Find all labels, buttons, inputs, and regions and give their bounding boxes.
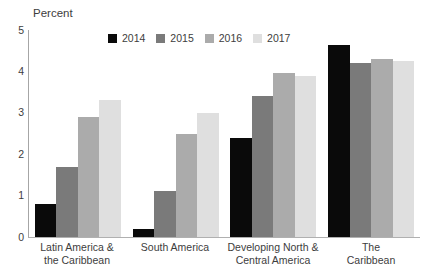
bar-2016 (273, 73, 295, 237)
y-tick-label: 3 (18, 106, 24, 119)
y-axis-tick-labels: 012345 (0, 30, 24, 237)
bar-2016 (78, 117, 100, 237)
category-label-line: Developing North & (224, 241, 322, 254)
bar-2017 (295, 76, 317, 237)
bar-2015 (350, 63, 372, 237)
bar-group (29, 30, 127, 237)
x-axis-category-labels: Latin America &the CaribbeanSouth Americ… (28, 241, 420, 267)
bar-2015 (252, 96, 274, 237)
category-label-line: Caribbean (322, 254, 420, 267)
bar-chart: Percent 2014201520162017 012345 Latin Am… (0, 0, 433, 280)
y-tick-label: 5 (18, 24, 24, 37)
bar-2014 (35, 204, 57, 237)
category-label-line: South America (126, 241, 224, 254)
y-tick-label: 4 (18, 65, 24, 78)
bar-2016 (176, 134, 198, 238)
bar-2014 (328, 45, 350, 238)
category-label-line: Central America (224, 254, 322, 267)
bar-2017 (197, 113, 219, 237)
category-label-line: The (322, 241, 420, 254)
y-tick-label: 0 (18, 231, 24, 244)
y-tick-label: 2 (18, 148, 24, 161)
bar-2017 (99, 100, 121, 237)
bar-2017 (393, 61, 415, 237)
category-label: Latin America &the Caribbean (28, 241, 126, 267)
bar-2015 (154, 191, 176, 237)
bar-2015 (56, 167, 78, 237)
category-label-line: the Caribbean (28, 254, 126, 267)
category-label-line: Latin America & (28, 241, 126, 254)
bar-2016 (371, 59, 393, 237)
bar-group (322, 30, 420, 237)
bar-group (225, 30, 323, 237)
bar-2014 (230, 138, 252, 237)
category-label: South America (126, 241, 224, 267)
y-axis-title: Percent (33, 7, 73, 19)
category-label: Developing North &Central America (224, 241, 322, 267)
y-tick-label: 1 (18, 189, 24, 202)
plot-area (28, 30, 420, 238)
bar-2014 (133, 229, 155, 237)
category-label: TheCaribbean (322, 241, 420, 267)
bar-group (127, 30, 225, 237)
